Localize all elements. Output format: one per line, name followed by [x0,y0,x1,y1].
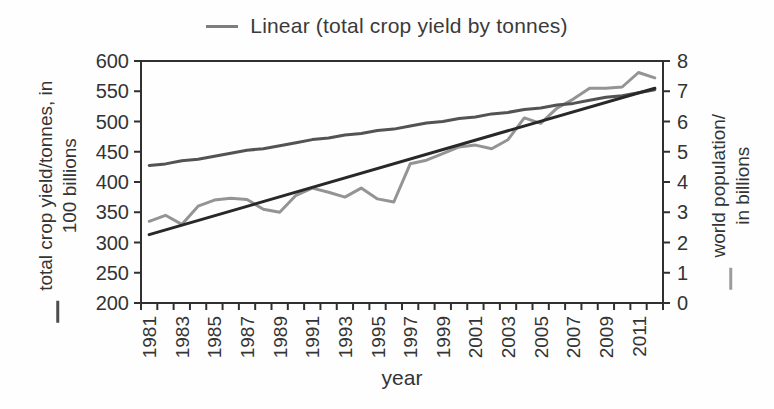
left-axis-ticks: 600550500450400350300250200 [96,50,141,314]
right-axis-title: world population/ in billions [707,57,755,347]
svg-text:250: 250 [96,262,129,284]
x-axis-ticks [141,303,663,310]
svg-text:1987: 1987 [237,316,258,358]
svg-text:450: 450 [96,141,129,163]
right-axis-ticks: 876543210 [663,50,688,314]
crop-yield-line [149,73,655,225]
svg-text:2011: 2011 [629,316,650,357]
svg-text:6: 6 [677,111,688,133]
svg-text:2: 2 [677,232,688,254]
svg-text:2007: 2007 [563,316,584,358]
right-axis-title-line2: in billions [731,147,755,225]
svg-text:3: 3 [677,201,688,223]
svg-text:1999: 1999 [433,316,454,358]
population-line-icon [730,268,733,290]
svg-text:2003: 2003 [498,316,519,358]
svg-text:400: 400 [96,171,129,193]
svg-text:1989: 1989 [270,316,291,358]
svg-text:300: 300 [96,232,129,254]
chart-plot: 6005505004504003503002502008765432101981… [0,0,774,409]
svg-text:200: 200 [96,292,129,314]
right-axis-title-line1: world population/ [707,114,731,258]
svg-text:8: 8 [677,50,688,72]
svg-text:1985: 1985 [204,316,225,358]
svg-text:1997: 1997 [400,316,421,358]
svg-text:1: 1 [677,262,688,284]
svg-text:2009: 2009 [596,316,617,358]
svg-text:2005: 2005 [531,316,552,358]
trendline [149,88,655,234]
svg-text:4: 4 [677,171,688,193]
svg-text:1981: 1981 [139,316,160,358]
svg-text:1983: 1983 [172,316,193,358]
svg-text:7: 7 [677,80,688,102]
x-tick-labels: 1981198319851987198919911993199519971999… [139,316,649,358]
svg-text:1991: 1991 [302,316,323,358]
svg-text:1993: 1993 [335,316,356,358]
svg-text:500: 500 [96,111,129,133]
svg-text:0: 0 [677,292,688,314]
svg-text:550: 550 [96,80,129,102]
svg-text:2001: 2001 [465,316,486,358]
svg-text:5: 5 [677,141,688,163]
svg-text:600: 600 [96,50,129,72]
svg-text:1995: 1995 [368,316,389,358]
population-line [149,90,655,166]
svg-text:350: 350 [96,201,129,223]
x-axis-title: year [141,366,663,390]
